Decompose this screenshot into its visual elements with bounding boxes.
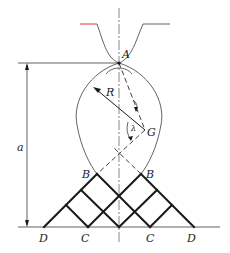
dimension-a: a xyxy=(17,63,29,227)
lattice-inner-3 xyxy=(119,190,157,227)
groove-curve xyxy=(97,24,143,63)
label-A: A xyxy=(121,48,130,61)
lattice-inner-2 xyxy=(81,190,119,227)
label-lambda: λ xyxy=(130,124,136,133)
lattice-inner-4 xyxy=(150,205,172,227)
arrow-down-icon xyxy=(25,220,29,227)
diagram-canvas: a xyxy=(0,0,230,253)
arrow-up-icon xyxy=(25,63,29,70)
lattice-B-left-C-right xyxy=(97,174,150,227)
line-B-right-up xyxy=(112,146,141,174)
label-B-left: B xyxy=(81,168,90,181)
label-D-left: D xyxy=(38,232,48,245)
lattice-inner-1 xyxy=(66,205,88,227)
lattice-D-B-left xyxy=(44,174,97,227)
point-labels: A R G λ B B D C C D xyxy=(38,48,196,245)
label-G: G xyxy=(147,126,156,139)
label-D-right: D xyxy=(186,232,196,245)
point-A-dot xyxy=(117,61,120,64)
label-a: a xyxy=(17,141,24,154)
label-C-right: C xyxy=(146,232,155,245)
label-C-left: C xyxy=(81,232,90,245)
line-G-B-left xyxy=(97,130,145,174)
radius-line-R xyxy=(97,90,145,130)
label-B-right: B xyxy=(145,168,154,181)
line-A-G xyxy=(119,63,145,130)
lens-left-arc xyxy=(76,63,119,174)
lattice-B-right-C-left xyxy=(88,174,141,227)
diagram: a xyxy=(0,0,230,253)
label-R: R xyxy=(105,86,114,99)
lattice-B-right-D xyxy=(141,174,194,227)
